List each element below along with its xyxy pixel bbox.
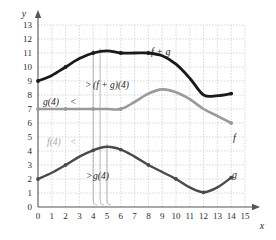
data-point-marker: [91, 51, 95, 55]
x-tick-label: 10: [172, 211, 182, 221]
x-axis-arrow-icon: [252, 204, 260, 210]
curve-g-label: g: [232, 169, 237, 180]
data-point-marker: [119, 51, 123, 55]
annotation-g-top-brace-icon: <: [70, 97, 76, 107]
x-tick-label: 9: [160, 211, 165, 221]
annotation-sum-at-4: (f + g)(4): [93, 80, 129, 91]
y-axis-label: y: [21, 8, 27, 19]
y-tick-label: 7: [28, 104, 33, 114]
x-tick-labels: 0123456789101112131415: [36, 211, 250, 221]
y-tick-label: 13: [23, 20, 33, 30]
annotation-f-at-4: f(4): [47, 137, 61, 148]
x-tick-label: 5: [105, 211, 110, 221]
y-tick-label: 0: [28, 202, 33, 212]
curve-sum-label: f + g: [151, 46, 171, 57]
curve-f-label: f: [233, 132, 237, 143]
data-point-marker: [36, 107, 40, 111]
x-tick-label: 7: [132, 211, 137, 221]
x-tick-label: 2: [63, 211, 68, 221]
data-point-marker: [64, 65, 68, 69]
data-point-marker: [147, 163, 151, 167]
y-tick-label: 3: [28, 160, 33, 170]
y-tick-label: 6: [28, 118, 33, 128]
data-point-marker: [119, 107, 123, 111]
measurement-bracket: [93, 50, 97, 206]
x-tick-label: 15: [241, 211, 251, 221]
y-tick-label: 5: [28, 132, 33, 142]
data-point-marker: [174, 177, 178, 181]
annotation-g-bottom-brace-icon: >: [86, 171, 92, 181]
data-point-marker: [119, 148, 123, 152]
y-tick-label: 2: [28, 174, 33, 184]
data-point-marker: [91, 148, 95, 152]
x-tick-label: 1: [50, 211, 55, 221]
annotation-sum-brace-icon: >: [85, 80, 91, 90]
data-point-marker: [147, 51, 151, 55]
y-tick-label: 8: [28, 90, 33, 100]
x-tick-label: 8: [146, 211, 151, 221]
measurement-bracket: [100, 48, 104, 205]
data-point-marker: [64, 163, 68, 167]
y-tick-label: 1: [28, 188, 33, 198]
plot-canvas: 0123456789101112131415 01234567891011121…: [0, 0, 276, 240]
annotation-g-at-4-top: g(4): [43, 97, 59, 108]
x-tick-label: 14: [227, 211, 237, 221]
data-point-marker: [91, 107, 95, 111]
y-tick-label: 9: [28, 76, 33, 86]
x-tick-label: 11: [185, 211, 194, 221]
annotation-f-brace-icon: <: [70, 137, 76, 147]
graph-figure: 0123456789101112131415 01234567891011121…: [0, 0, 276, 240]
y-tick-labels: 012345678910111213: [23, 20, 33, 212]
x-tick-label: 6: [119, 211, 124, 221]
data-point-marker: [64, 107, 68, 111]
x-tick-label: 13: [213, 211, 223, 221]
data-point-marker: [202, 190, 206, 194]
annotation-g-at-4-bottom: g(4): [93, 171, 109, 182]
data-point-marker: [229, 121, 233, 125]
y-tick-label: 10: [23, 62, 33, 72]
x-tick-label: 3: [77, 211, 82, 221]
x-tick-label: 12: [199, 211, 208, 221]
y-tick-label: 12: [23, 34, 32, 44]
data-point-marker: [229, 92, 233, 96]
data-point-marker: [36, 177, 40, 181]
y-axis-arrow-icon: [35, 10, 41, 18]
measurement-brackets: [93, 48, 111, 205]
y-tick-label: 11: [23, 48, 32, 58]
x-axis-label: x: [259, 220, 265, 231]
y-tick-label: 4: [28, 146, 33, 156]
data-point-marker: [36, 79, 40, 83]
x-tick-label: 0: [36, 211, 41, 221]
x-tick-label: 4: [91, 211, 96, 221]
